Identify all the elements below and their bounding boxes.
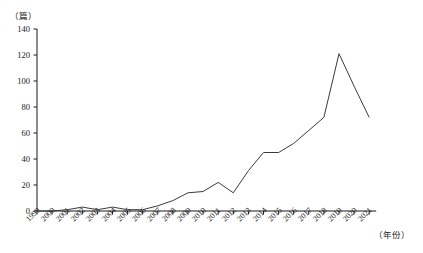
axis-lines — [37, 29, 376, 211]
plot-area — [0, 0, 423, 253]
y-axis-ticks — [34, 29, 38, 211]
line-chart: （篇） （年份） 020406080100120140 199920002001… — [0, 0, 423, 253]
x-axis-ticks — [37, 211, 369, 215]
data-series-line — [37, 54, 369, 211]
